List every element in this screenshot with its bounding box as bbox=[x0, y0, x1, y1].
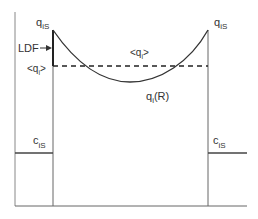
average-loading-left-label: <qi> bbox=[27, 63, 46, 76]
particle-concentration-diagram: qiS qiS LDF <qi> <qi> qi(R) ciS ciS bbox=[0, 0, 258, 219]
q-is-right-label: qiS bbox=[214, 16, 227, 31]
q-is-left-label: qiS bbox=[36, 16, 49, 31]
c-is-right-label: ciS bbox=[213, 134, 226, 150]
loading-profile-label: qi(R) bbox=[146, 90, 169, 105]
c-is-left-label: ciS bbox=[33, 134, 46, 150]
ldf-label: LDF bbox=[18, 42, 39, 54]
ldf-arrow-head bbox=[46, 45, 52, 51]
average-loading-center-label: <qi> bbox=[130, 47, 149, 60]
